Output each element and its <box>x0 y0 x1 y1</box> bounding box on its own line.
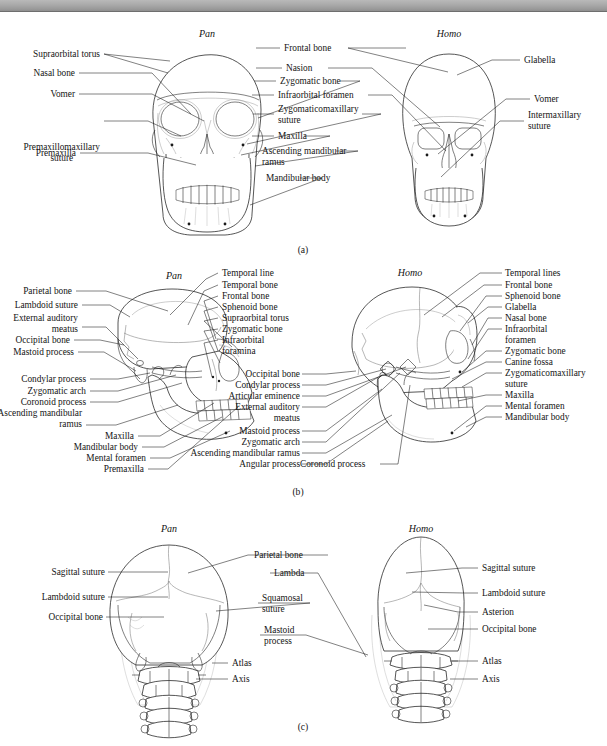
homo-posterior-skull <box>372 537 471 723</box>
label-lambdoid-suture-pan-b: Lambdoid suture <box>15 300 78 311</box>
taxon-label-homo-a: Homo <box>437 28 461 39</box>
label-asterion-homo-c: Asterion <box>482 607 514 618</box>
homo-cervical-vertebrae <box>390 680 452 723</box>
homo-lateral-skull <box>352 287 477 442</box>
label-external-auditory-meatus-pan-b: External auditory meatus <box>13 313 78 334</box>
label-parietal-bone-c: Parietal bone <box>254 550 303 561</box>
label-zygomatic-arch-pan-b: Zygomatic arch <box>27 386 86 397</box>
label-condylar-process-homo-b: Condylar process <box>235 380 300 391</box>
label-mandibular-body-homo-b: Mandibular body <box>505 412 569 423</box>
label-mandibular-body-pan-b: Mandibular body <box>74 442 138 453</box>
label-mastoid-process-pan-b: Mastoid process <box>13 347 74 358</box>
label-mental-foramen-homo-b: Mental foramen <box>505 401 565 412</box>
label-nasal-bone-homo-b: Nasal bone <box>505 313 547 324</box>
label-mental-foramen-pan-b: Mental foramen <box>86 453 146 464</box>
pan-cervical-vertebrae <box>139 695 199 738</box>
label-sagittal-suture-homo-c: Sagittal suture <box>482 563 535 574</box>
label-ascending-mandibular-ramus-a: Ascending mandibular ramus <box>262 146 346 167</box>
label-ascending-mandibular-ramus-pan-b: Ascending mandibular ramus <box>0 408 82 429</box>
label-sphenoid-bone-homo-b: Sphenoid bone <box>505 291 561 302</box>
figure-root: ”” <box>0 0 607 746</box>
label-zygomatic-arch-homo-b: Zygomatic arch <box>241 437 300 448</box>
label-condylar-process-pan-b: Condylar process <box>21 374 86 385</box>
banner-mark-glyph: ”” <box>38 0 84 7</box>
label-coronoid-process-pan-b: Coronoid process <box>21 397 86 408</box>
pan-anterior-skull <box>152 55 262 235</box>
taxon-label-homo-b: Homo <box>398 267 422 278</box>
label-maxilla-homo-b: Maxilla <box>505 390 534 401</box>
homo-lower-dentition <box>425 187 473 202</box>
label-articular-eminence-homo-b: Articular eminence <box>229 391 301 402</box>
label-temporal-lines-homo-b: Temporal lines <box>505 268 560 279</box>
homo-anterior-skull <box>403 54 496 226</box>
label-lambdoid-suture-pan-c: Lambdoid suture <box>42 592 105 603</box>
label-infraorbital-foramina-pan-b: Infraorbital foramina <box>222 335 264 356</box>
label-canine-fossa-homo-b: Canine fossa <box>505 357 553 368</box>
pan-lower-dentition <box>176 185 239 205</box>
label-infraorbital-foramen-a: Infraorbital foramen <box>278 90 354 101</box>
label-intermaxillary-suture-a: Intermaxillary suture <box>528 110 581 131</box>
label-atlas-pan-c: Atlas <box>232 658 252 669</box>
label-coronoid-process-homo-b: Coronoid process <box>300 459 365 470</box>
label-zygomaticomaxillary-suture-homo-b: Zygomaticomaxillary suture <box>505 368 586 389</box>
label-premaxilla-pan-b: Premaxilla <box>104 464 144 475</box>
taxon-label-pan-b: Pan <box>166 270 182 281</box>
label-glabella-a: Glabella <box>524 55 556 66</box>
taxon-label-homo-c: Homo <box>409 523 433 534</box>
cropped-page-banner: ”” <box>0 0 607 11</box>
panel-letter-b: (b) <box>292 486 303 497</box>
label-parietal-bone-pan-b: Parietal bone <box>23 286 72 297</box>
label-vomer-homo-a: Vomer <box>534 94 559 105</box>
label-nasal-bone-pan-a: Nasal bone <box>33 68 75 79</box>
label-infraorbital-foramen-homo-b: Infraorbital foramen <box>505 324 547 345</box>
panel-letter-a: (a) <box>298 244 309 255</box>
label-lambdoid-suture-homo-c: Lambdoid suture <box>482 588 545 599</box>
label-angular-process-homo-b: Angular process <box>239 459 300 470</box>
label-supraorbital-torus-pan-a: Supraorbital torus <box>33 49 100 60</box>
label-occipital-bone-pan-c: Occipital bone <box>49 612 103 623</box>
label-axis-pan-c: Axis <box>232 674 250 685</box>
label-zygomaticomaxillary-suture-a: Zygomaticomaxillary suture <box>278 104 359 125</box>
panel-a-anterior-view: Pan Homo Supraorbital torus Nasal bone V… <box>0 18 607 268</box>
label-occipital-bone-homo-c: Occipital bone <box>482 624 536 635</box>
label-external-auditory-meatus-homo-b: External auditory meatus <box>235 402 300 423</box>
taxon-label-pan-c: Pan <box>161 523 177 534</box>
label-sphenoid-bone-pan-b: Sphenoid bone <box>222 302 278 313</box>
label-maxilla-a: Maxilla <box>278 131 307 142</box>
label-sagittal-suture-pan-c: Sagittal suture <box>52 567 105 578</box>
homo-lateral-lower-teeth <box>426 397 473 409</box>
label-vomer-pan-a: Vomer <box>50 89 75 100</box>
banner-divider-rule <box>0 11 607 12</box>
label-zygomatic-bone-pan-b: Zygomatic bone <box>222 324 283 335</box>
label-temporal-bone-pan-b: Temporal bone <box>222 280 278 291</box>
label-supraorbital-torus-pan-b: Supraorbital torus <box>222 313 289 324</box>
panel-letter-c: (c) <box>298 721 309 732</box>
pan-posterior-skull <box>110 545 228 738</box>
label-frontal-bone-a: Frontal bone <box>284 43 331 54</box>
label-nasion-a: Nasion <box>286 63 312 74</box>
label-zygomatic-bone-homo-b: Zygomatic bone <box>505 346 566 357</box>
label-atlas-homo-c: Atlas <box>482 656 502 667</box>
label-glabella-homo-b: Glabella <box>505 302 537 313</box>
label-mastoid-process-c: Mastoid process <box>264 625 294 646</box>
panel-c-posterior-view: Pan Homo Sagittal suture Lambdoid suture… <box>0 505 607 746</box>
label-frontal-bone-homo-b: Frontal bone <box>505 280 552 291</box>
label-premaxilla-pan-a: Premaxilla <box>36 148 76 159</box>
taxon-label-pan-a: Pan <box>199 28 215 39</box>
homo-atlas-vertebra <box>384 651 458 670</box>
label-occipital-bone-pan-b: Occipital bone <box>16 335 70 346</box>
label-mandibular-body-a: Mandibular body <box>266 173 330 184</box>
label-maxilla-pan-b: Maxilla <box>105 431 134 442</box>
label-ascending-mandibular-ramus-homo-b: Ascending mandibular ramus <box>191 448 300 459</box>
label-zygomatic-bone-a: Zygomatic bone <box>280 76 341 87</box>
label-frontal-bone-pan-b: Frontal bone <box>222 291 269 302</box>
label-mastoid-process-homo-b: Mastoid process <box>239 426 300 437</box>
label-squamosal-suture-c: Squamosal suture <box>262 593 303 614</box>
label-temporal-line-pan-b: Temporal line <box>222 268 274 279</box>
label-occipital-bone-homo-b: Occipital bone <box>246 369 300 380</box>
panel-b-lateral-view: Pan Homo Parietal bone Lambdoid suture E… <box>0 255 607 505</box>
label-axis-homo-c: Axis <box>482 674 500 685</box>
label-lambda-c: Lambda <box>274 568 304 579</box>
